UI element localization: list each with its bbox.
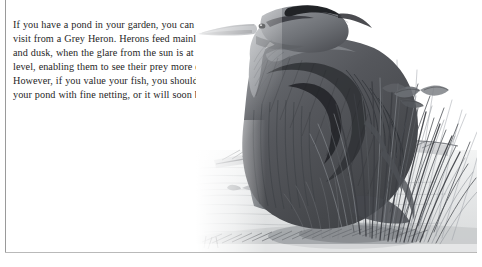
vignette-left [196,120,266,252]
page-frame-bottom-rule [5,252,477,253]
heron-illustration-svg [196,0,477,252]
vignette-bottom [196,244,477,252]
heron-illustration [196,0,477,252]
page-frame-left-rule [5,0,6,253]
scanned-page: If you have a pond in your garden, you c… [0,0,482,267]
